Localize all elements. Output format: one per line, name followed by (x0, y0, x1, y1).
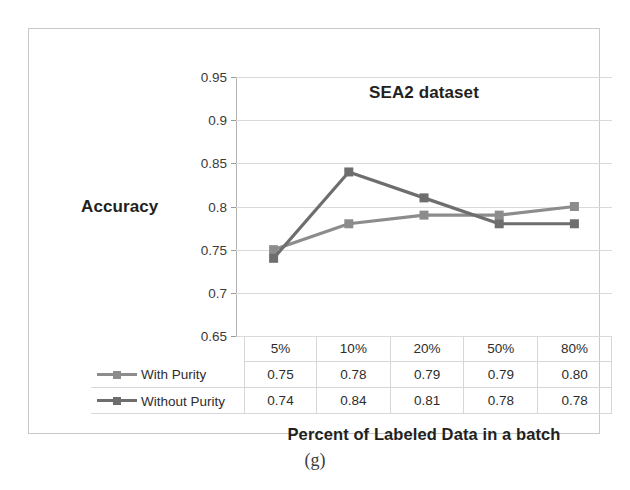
data-point-marker (495, 211, 504, 220)
y-tick-label: 0.9 (208, 113, 227, 128)
legend-label: With Purity (141, 367, 206, 382)
data-point-marker (344, 219, 353, 228)
data-point-marker (570, 202, 579, 211)
table-cell-value: 0.84 (317, 388, 391, 414)
table-cell-value: 0.74 (245, 388, 317, 414)
column-header: 5% (245, 336, 317, 362)
table-row: With Purity0.750.780.790.790.80 (91, 362, 612, 388)
data-table: 5%10%20%50%80%With Purity0.750.780.790.7… (91, 336, 612, 414)
table-header-row: 5%10%20%50%80% (91, 336, 612, 362)
plot-area: 0.950.90.850.80.750.70.65 SEA2 dataset (236, 77, 612, 336)
legend-swatch-icon (97, 371, 137, 379)
y-tick-label: 0.75 (201, 242, 227, 257)
table-cell-value: 0.78 (538, 388, 612, 414)
table-cell-value: 0.78 (317, 362, 391, 388)
data-point-marker (420, 193, 429, 202)
x-axis-title: Percent of Labeled Data in a batch (236, 425, 612, 444)
figure-caption: (g) (0, 450, 630, 471)
legend-corner-cell (91, 336, 245, 362)
column-header: 80% (538, 336, 612, 362)
legend-item-1[interactable]: With Purity (91, 362, 245, 388)
column-header: 20% (390, 336, 464, 362)
plot-inner: 0.950.90.850.80.750.70.65 SEA2 dataset (236, 77, 612, 336)
data-point-marker (269, 254, 278, 263)
data-point-marker (495, 219, 504, 228)
data-point-marker (344, 167, 353, 176)
table-cell-value: 0.79 (390, 362, 464, 388)
series-plot (236, 77, 612, 336)
table-cell-value: 0.81 (390, 388, 464, 414)
table-cell-value: 0.78 (464, 388, 538, 414)
y-axis-title: Accuracy (81, 197, 211, 217)
y-tick-label: 0.95 (201, 70, 227, 85)
data-point-marker (570, 219, 579, 228)
table-cell-value: 0.79 (464, 362, 538, 388)
data-point-marker (420, 211, 429, 220)
column-header: 50% (464, 336, 538, 362)
y-tick-label: 0.7 (208, 285, 227, 300)
column-header: 10% (317, 336, 391, 362)
y-tick-label: 0.85 (201, 156, 227, 171)
table-row: Without Purity0.740.840.810.780.78 (91, 388, 612, 414)
legend-label: Without Purity (141, 393, 225, 408)
table-cell-value: 0.80 (538, 362, 612, 388)
legend-swatch-icon (97, 397, 137, 405)
figure-frame: Accuracy 0.950.90.850.80.750.70.65 SEA2 … (28, 28, 600, 434)
y-tick-label: 0.8 (208, 199, 227, 214)
legend-item-2[interactable]: Without Purity (91, 388, 245, 414)
table-cell-value: 0.75 (245, 362, 317, 388)
